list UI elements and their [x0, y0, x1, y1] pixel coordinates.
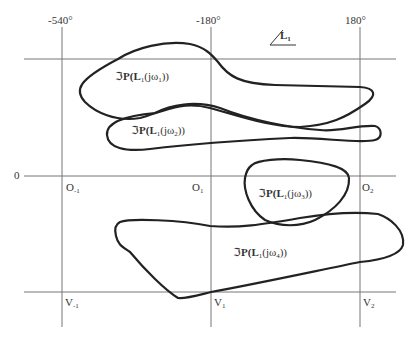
template-curve-w1	[80, 43, 373, 127]
tick-label-minus540: -540°	[48, 14, 73, 26]
nichols-chart-canvas	[0, 0, 419, 342]
point-label-v1: V1	[214, 296, 225, 310]
phase-axis-label: L1	[280, 29, 291, 43]
template-label-w3: ℑP(L1(jω3))	[258, 187, 312, 201]
template-label-w4: ℑP(L1(jω4))	[233, 246, 287, 260]
zero-db-label: 0	[14, 169, 20, 181]
template-label-w1: ℑP(L1(jω1))	[115, 70, 169, 84]
point-label-v-minus1: V-1	[65, 296, 79, 310]
tick-label-180: 180°	[345, 14, 366, 26]
point-label-v2: V2	[363, 296, 374, 310]
point-label-o-minus1: O-1	[66, 181, 80, 195]
point-label-o1: O1	[192, 181, 203, 195]
point-label-o2: O2	[362, 181, 373, 195]
template-label-w2: ℑP(L1(jω2))	[131, 124, 185, 138]
tick-label-minus180: -180°	[196, 14, 221, 26]
